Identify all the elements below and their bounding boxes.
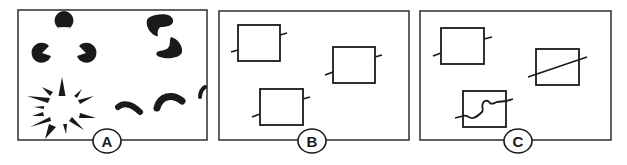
- radial-spikes: [27, 77, 96, 139]
- pacman-top-shape: [55, 11, 74, 27]
- panel-b-label: B: [298, 129, 326, 153]
- kidney-bottom-shape: [156, 37, 182, 58]
- panel-c-frame: [420, 11, 611, 140]
- spike: [69, 117, 84, 130]
- box: [333, 47, 375, 83]
- line-stub-left: [252, 114, 260, 117]
- panel-c-boxes: [433, 28, 587, 127]
- panel-b-label-text: B: [307, 133, 318, 150]
- perception-figure: A B: [0, 0, 627, 165]
- line-stub-right: [303, 97, 310, 99]
- kanizsa-pacmen: [32, 11, 97, 63]
- spike: [59, 77, 66, 96]
- panel-a-label-text: A: [102, 133, 113, 150]
- panel-b-boxes: [231, 25, 382, 125]
- spike: [74, 89, 82, 98]
- arc-fragment-right: [200, 87, 205, 97]
- panel-a: A: [18, 10, 207, 153]
- arc-fragment-middle: [157, 97, 182, 108]
- arc-fragments: [118, 87, 205, 112]
- kidney-shapes: [147, 14, 182, 58]
- panel-c: C: [420, 11, 611, 153]
- line-stub-left: [433, 53, 441, 56]
- arc-fragment-left: [118, 104, 140, 112]
- spike: [34, 106, 44, 109]
- spike: [32, 112, 44, 116]
- spike: [42, 87, 53, 96]
- box: [463, 91, 506, 127]
- spike: [79, 113, 96, 118]
- pacman-left-shape: [32, 43, 51, 63]
- box: [441, 28, 484, 64]
- panel-c-label: C: [504, 129, 532, 153]
- spike: [45, 124, 56, 139]
- line-stub-left: [325, 72, 333, 75]
- kidney-top-shape: [147, 14, 173, 36]
- spike: [27, 96, 50, 103]
- line-stub-right: [484, 37, 492, 39]
- line-stub-left: [231, 50, 238, 52]
- pacman-right-shape: [77, 43, 96, 63]
- spike: [63, 124, 67, 134]
- panel-c-label-text: C: [513, 133, 524, 150]
- box: [238, 25, 280, 61]
- spike: [30, 117, 51, 127]
- panel-a-label: A: [93, 129, 121, 153]
- panel-b-frame: [219, 11, 409, 140]
- line-stub-right: [280, 33, 287, 35]
- line-stub-right: [375, 55, 382, 57]
- panel-b: B: [219, 11, 409, 153]
- box: [260, 89, 303, 125]
- spike: [78, 96, 94, 104]
